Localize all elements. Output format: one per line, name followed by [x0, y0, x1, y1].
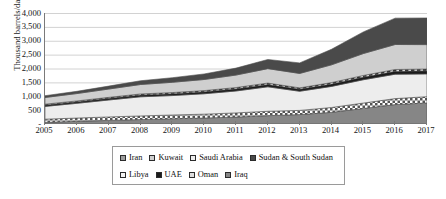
x-tick-label: 2017 [406, 125, 446, 135]
x-axis-tick-labels: 2005200620072008200920102011201220132014… [44, 125, 426, 139]
legend-item[interactable]: Libya [120, 171, 149, 179]
legend-item[interactable]: Kuwait [149, 154, 183, 162]
x-tick-mark [331, 121, 332, 125]
legend-swatch-icon [120, 172, 126, 178]
y-tick-label: 3,000 [1, 35, 41, 45]
y-tick-label: 2,500 [1, 49, 41, 59]
y-tick-label: 1,500 [1, 77, 41, 87]
x-tick-mark [267, 121, 268, 125]
legend-swatch-icon [120, 155, 126, 161]
legend-label: Sudan & South Sudan [259, 154, 333, 162]
legend-row-1: IranKuwaitSaudi ArabiaSudan & South Suda… [113, 150, 344, 166]
x-tick-mark [44, 121, 45, 125]
legend-item[interactable]: UAE [156, 171, 182, 179]
legend-item[interactable]: Iraq [225, 171, 247, 179]
y-tick-label: 2,000 [1, 63, 41, 73]
legend-row-2: LibyaUAEOmanIraq [113, 167, 344, 183]
legend-swatch-icon [225, 172, 231, 178]
y-tick-label: 500 [1, 105, 41, 115]
legend-item[interactable]: Oman [189, 171, 218, 179]
legend-label: Saudi Arabia [199, 154, 243, 162]
legend-label: Kuwait [158, 154, 183, 162]
legend-item[interactable]: Sudan & South Sudan [250, 154, 333, 162]
y-axis-tick-labels: -5001,0001,5002,0002,5003,0003,5004,000 [0, 13, 41, 124]
legend-swatch-icon [189, 172, 195, 178]
legend-swatch-icon [190, 155, 196, 161]
x-tick-mark [171, 121, 172, 125]
x-tick-mark [235, 121, 236, 125]
legend-swatch-icon [250, 155, 256, 161]
legend-item[interactable]: Iran [120, 154, 142, 162]
x-tick-mark [362, 121, 363, 125]
y-tick-label: 1,000 [1, 91, 41, 101]
legend-label: Oman [198, 171, 218, 179]
x-tick-mark [299, 121, 300, 125]
chart-figure: Thousand barrels/day -5001,0001,5002,000… [0, 0, 446, 199]
legend-label: Libya [129, 171, 149, 179]
x-tick-mark [140, 121, 141, 125]
area-series-group [45, 18, 427, 124]
y-tick-label: 3,500 [1, 21, 41, 31]
legend-label: Iran [129, 154, 142, 162]
chart-legend: IranKuwaitSaudi ArabiaSudan & South Suda… [112, 146, 345, 185]
legend-label: UAE [165, 171, 182, 179]
legend-swatch-icon [149, 155, 155, 161]
x-tick-mark [203, 121, 204, 125]
x-tick-mark [426, 121, 427, 125]
legend-swatch-icon [156, 172, 162, 178]
y-tick-label: 4,000 [1, 8, 41, 18]
x-tick-mark [108, 121, 109, 125]
x-tick-mark [76, 121, 77, 125]
plot-area [44, 13, 426, 124]
stacked-area-svg [45, 13, 427, 124]
x-tick-mark [394, 121, 395, 125]
legend-item[interactable]: Saudi Arabia [190, 154, 243, 162]
legend-label: Iraq [234, 171, 247, 179]
